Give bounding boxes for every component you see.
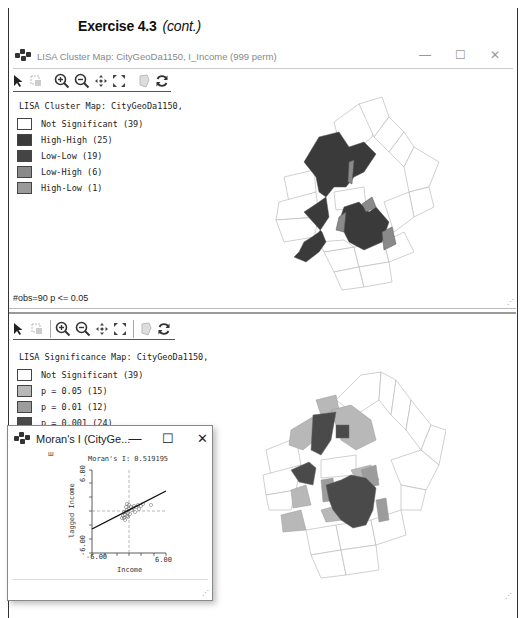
legend-label: Low-High (6) xyxy=(41,167,102,177)
legend-swatch xyxy=(17,166,32,178)
legend-item-not-significant[interactable]: Not Significant (39) xyxy=(17,116,183,132)
moran-window-title: Moran's I (CityGe... xyxy=(36,433,130,445)
legend-item-p001[interactable]: p = 0.01 (12) xyxy=(17,399,208,415)
cluster-window-title: LISA Cluster Map: CityGeoDa1150, I_Incom… xyxy=(37,51,277,62)
significance-legend-title: LISA Significance Map: CityGeoDa1150, xyxy=(19,352,208,362)
lisa-cluster-map[interactable] xyxy=(264,92,444,292)
legend-label: High-Low (1) xyxy=(41,183,102,193)
refresh-icon[interactable] xyxy=(155,72,169,90)
zoom-in-icon[interactable] xyxy=(55,320,71,338)
selection-tool-icon[interactable] xyxy=(30,320,44,338)
moran-statistic-label: Moran's I: 0.519195 xyxy=(88,455,168,463)
toolbar-separator xyxy=(50,320,51,338)
geoda-app-icon xyxy=(15,49,31,63)
legend-swatch xyxy=(17,134,32,146)
resize-grip[interactable]: ⋰ xyxy=(507,298,514,306)
x-axis-label: Income xyxy=(117,566,142,572)
refresh-icon[interactable] xyxy=(157,320,171,338)
legend-swatch xyxy=(17,369,32,381)
moran-scatter-plot[interactable]: Moran's I: 0.519195 -6.00 6.00 6.00 -6.0… xyxy=(8,452,212,572)
select-icon[interactable] xyxy=(13,72,25,90)
legend-item-high-high[interactable]: High-High (25) xyxy=(17,132,183,148)
legend-label: High-High (25) xyxy=(41,135,113,145)
minimize-button[interactable]: — xyxy=(415,48,435,62)
legend-swatch xyxy=(17,401,32,413)
map-layer-icon[interactable] xyxy=(137,72,151,90)
y-max-label: 6.00 xyxy=(79,465,87,482)
zoom-out-icon[interactable] xyxy=(75,320,91,338)
status-divider xyxy=(9,308,516,309)
y-axis-label: lagged Income xyxy=(68,483,76,538)
resize-grip[interactable]: ⋰ xyxy=(505,592,512,600)
cluster-toolbar xyxy=(13,70,171,92)
legend-item-p005[interactable]: p = 0.05 (15) xyxy=(17,383,208,399)
toolbar-separator xyxy=(133,320,134,338)
legend-label: p = 0.01 (12) xyxy=(41,402,108,412)
selection-tool-icon[interactable] xyxy=(29,72,43,90)
legend-label: Low-Low (19) xyxy=(41,151,102,161)
legend-swatch xyxy=(17,182,32,194)
lisa-cluster-map-window: LISA Cluster Map: CityGeoDa1150, I_Incom… xyxy=(9,44,516,312)
map-layer-icon[interactable] xyxy=(139,320,153,338)
zoom-in-icon[interactable] xyxy=(54,72,70,90)
cluster-legend-title: LISA Cluster Map: CityGeoDa1150, xyxy=(19,101,183,111)
maximize-button[interactable]: ☐ xyxy=(450,48,470,62)
pan-icon[interactable] xyxy=(95,320,109,338)
legend-label: Not Significant (39) xyxy=(41,119,143,129)
select-icon[interactable] xyxy=(13,320,26,338)
legend-swatch xyxy=(17,150,32,162)
moran-titlebar[interactable]: Moran's I (CityGe... — ☐ ✕ xyxy=(8,426,212,452)
zoom-out-icon[interactable] xyxy=(74,72,90,90)
significance-legend: LISA Significance Map: CityGeoDa1150, No… xyxy=(17,352,208,431)
lisa-significance-map[interactable] xyxy=(261,370,446,590)
close-button[interactable]: ✕ xyxy=(192,431,212,446)
legend-label: Not Significant (39) xyxy=(41,370,143,380)
page-border-right xyxy=(517,8,518,618)
legend-item-low-high[interactable]: Low-High (6) xyxy=(17,164,183,180)
legend-item-low-low[interactable]: Low-Low (19) xyxy=(17,148,183,164)
legend-item-high-low[interactable]: High-Low (1) xyxy=(17,180,183,196)
significance-toolbar xyxy=(13,318,175,340)
legend-label: p = 0.05 (15) xyxy=(41,386,108,396)
status-divider xyxy=(12,579,208,580)
x-max-label: 6.00 xyxy=(155,556,172,564)
exercise-title: Exercise 4.3 xyxy=(78,18,157,34)
exercise-heading: Exercise 4.3(cont.) xyxy=(78,18,201,34)
exercise-suffix: (cont.) xyxy=(163,18,201,34)
legend-swatch xyxy=(17,118,32,130)
titlebar-divider xyxy=(13,68,513,69)
close-button[interactable]: ✕ xyxy=(485,48,505,62)
geoda-app-icon xyxy=(14,432,30,446)
cluster-titlebar[interactable]: LISA Cluster Map: CityGeoDa1150, I_Incom… xyxy=(9,44,516,68)
window-top-border xyxy=(9,312,516,314)
cluster-legend: LISA Cluster Map: CityGeoDa1150, Not Sig… xyxy=(17,101,183,196)
maximize-button[interactable]: ☐ xyxy=(158,431,178,446)
fit-extent-icon[interactable] xyxy=(112,72,126,90)
resize-grip[interactable]: ⋰ xyxy=(202,589,209,597)
fit-extent-icon[interactable] xyxy=(113,320,127,338)
y-min-label: -6.00 xyxy=(79,535,87,556)
cluster-status-bar: #obs=90 p <= 0.05 xyxy=(13,293,88,303)
legend-swatch xyxy=(17,385,32,397)
morans-i-window: Moran's I (CityGe... — ☐ ✕ ш Moran's I: … xyxy=(7,425,213,601)
x-min-label: -6.00 xyxy=(86,553,107,561)
minimize-button[interactable]: — xyxy=(125,431,145,446)
legend-item-not-significant[interactable]: Not Significant (39) xyxy=(17,367,208,383)
pan-icon[interactable] xyxy=(94,72,108,90)
